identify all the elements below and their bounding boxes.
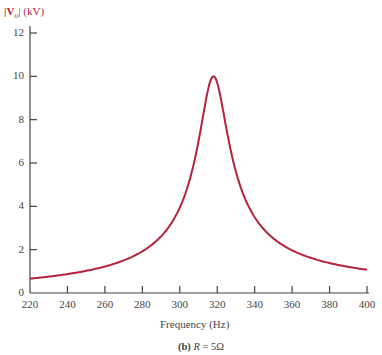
y-tick-label: 10 (10, 69, 24, 81)
y-tick-label: 4 (10, 199, 24, 211)
x-tick-label: 320 (202, 298, 232, 310)
y-tick-label: 0 (10, 286, 24, 298)
y-tick-marks (30, 33, 37, 250)
y-axis-label: |Vo| (kV) (4, 5, 44, 20)
x-tick-label: 340 (240, 298, 270, 310)
x-tick-label: 380 (315, 298, 345, 310)
x-tick-label: 260 (90, 298, 120, 310)
x-tick-label: 400 (352, 298, 382, 310)
figure-caption: (b) R = 5Ω (178, 341, 224, 352)
x-tick-label: 220 (15, 298, 45, 310)
y-tick-label: 2 (10, 243, 24, 255)
x-axis-label: Frequency (Hz) (160, 318, 229, 330)
y-label-rest: | (kV) (18, 5, 44, 17)
response-curve (30, 76, 367, 278)
y-tick-label: 12 (10, 26, 24, 38)
x-tick-marks (67, 286, 367, 293)
caption-value: = 5Ω (200, 341, 224, 352)
x-tick-label: 360 (277, 298, 307, 310)
y-tick-label: 8 (10, 113, 24, 125)
y-tick-label: 6 (10, 156, 24, 168)
y-label-main: |V (4, 5, 14, 17)
x-tick-label: 280 (127, 298, 157, 310)
caption-prefix: (b) (178, 341, 191, 352)
x-tick-label: 240 (52, 298, 82, 310)
x-tick-label: 300 (165, 298, 195, 310)
